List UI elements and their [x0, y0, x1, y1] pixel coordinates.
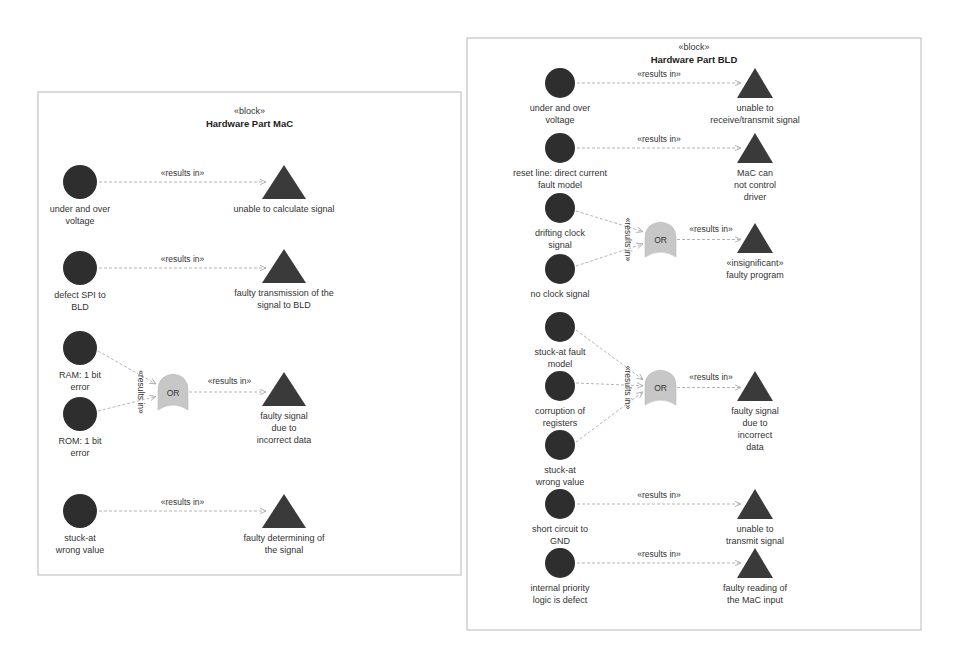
effect-label-line: «insignificant»	[726, 258, 783, 268]
cause-label-line: wrong value	[535, 477, 585, 487]
effect-label-line: unable to	[736, 524, 773, 534]
cause-label-line: stuck-at	[544, 465, 576, 475]
effect-label-line: faulty transmission of the	[234, 288, 334, 298]
effect-label-line: receive/transmit signal	[710, 115, 800, 125]
effect-label-line: the MaC input	[727, 595, 784, 605]
cause-circle-icon	[545, 430, 575, 460]
cause-circle-icon	[545, 489, 575, 519]
effect-label-line: incorrect	[738, 430, 773, 440]
effect-label-line: unable to	[736, 103, 773, 113]
block-mac: «block»Hardware Part MaC«results in»«res…	[38, 92, 461, 575]
gate-inputs-label: «results in»	[623, 218, 633, 262]
effect-label-line: signal to BLD	[257, 300, 311, 310]
results-in-label: «results in»	[161, 168, 205, 178]
results-in-label: «results in»	[637, 490, 681, 500]
or-gate-label: OR	[654, 383, 667, 393]
effect-label-line: faulty signal	[731, 406, 779, 416]
cause-label-line: reset line: direct current	[513, 168, 608, 178]
effect-label-line: faulty reading of	[723, 583, 788, 593]
effect-label-line: data	[746, 442, 764, 452]
effect-label-line: incorrect data	[257, 435, 312, 445]
cause-label-line: ROM: 1 bit	[58, 436, 102, 446]
cause-label-line: defect SPI to	[54, 290, 106, 300]
effect-label-line: transmit signal	[726, 536, 784, 546]
cause-circle-icon	[545, 548, 575, 578]
block-bld: «block»Hardware Part BLD«results in»«res…	[467, 38, 921, 630]
cause-circle-icon	[545, 312, 575, 342]
results-in-label: «results in»	[161, 497, 205, 507]
effect-label-line: not control	[734, 180, 776, 190]
gate-inputs-label: «results in»	[623, 366, 633, 410]
cause-label-line: logic is defect	[533, 595, 588, 605]
cause-label-line: GND	[550, 536, 571, 546]
block-frame	[467, 38, 921, 630]
block-title: Hardware Part MaC	[206, 118, 293, 129]
cause-label-line: under and over	[530, 103, 591, 113]
cause-label-line: under and over	[50, 204, 111, 214]
cause-circle-icon	[545, 68, 575, 98]
cause-circle-icon	[63, 165, 97, 199]
results-in-label: «results in»	[637, 134, 681, 144]
effect-label-line: due to	[742, 418, 767, 428]
cause-label-line: fault model	[538, 180, 582, 190]
gate-inputs-label: «results in»	[136, 370, 146, 414]
block-stereotype: «block»	[234, 106, 265, 116]
or-gate-label: OR	[654, 235, 667, 245]
cause-label-line: error	[70, 448, 89, 458]
block-title: Hardware Part BLD	[651, 54, 738, 65]
cause-circle-icon	[545, 193, 575, 223]
cause-label-line: voltage	[545, 115, 574, 125]
fault-tree-diagram: «block»Hardware Part MaC«results in»«res…	[0, 0, 964, 667]
cause-label-line: internal priority	[530, 583, 590, 593]
block-stereotype: «block»	[678, 42, 709, 52]
cause-label-line: no clock signal	[530, 289, 589, 299]
cause-circle-icon	[63, 494, 97, 528]
effect-label: unable to calculate signal	[233, 204, 334, 214]
cause-label-line: model	[548, 359, 573, 369]
cause-label-line: signal	[548, 240, 572, 250]
cause-label-line: stuck-at fault	[534, 347, 586, 357]
results-in-label: «results in»	[637, 69, 681, 79]
cause-circle-icon	[545, 133, 575, 163]
results-in-label: «results in»	[637, 549, 681, 559]
cause-circle-icon	[63, 397, 97, 431]
cause-label-line: BLD	[71, 302, 89, 312]
block-frame	[38, 92, 461, 575]
cause-label-line: registers	[543, 418, 578, 428]
effect-label-line: unable to calculate signal	[233, 204, 334, 214]
cause-label-line: stuck-at	[64, 533, 96, 543]
cause-circle-icon	[63, 251, 97, 285]
cause-label: no clock signal	[530, 289, 589, 299]
effect-label-line: due to	[271, 423, 296, 433]
effect-label-line: driver	[744, 192, 767, 202]
cause-circle-icon	[63, 331, 97, 365]
cause-label-line: drifting clock	[535, 228, 586, 238]
cause-label-line: wrong value	[55, 545, 105, 555]
cause-circle-icon	[545, 371, 575, 401]
gate-output-label: «results in»	[689, 224, 733, 234]
cause-label-line: short circuit to	[532, 524, 588, 534]
cause-label-line: voltage	[65, 216, 94, 226]
cause-circle-icon	[545, 254, 575, 284]
effect-label-line: faulty signal	[260, 411, 308, 421]
effect-label-line: the signal	[265, 545, 304, 555]
gate-output-label: «results in»	[208, 376, 252, 386]
gate-output-label: «results in»	[689, 372, 733, 382]
results-in-label: «results in»	[161, 254, 205, 264]
cause-label-line: RAM: 1 bit	[59, 370, 102, 380]
effect-label-line: faulty determining of	[243, 533, 325, 543]
cause-label-line: corruption of	[535, 406, 586, 416]
or-gate-label: OR	[167, 388, 180, 398]
effect-label-line: MaC can	[737, 168, 773, 178]
effect-label-line: faulty program	[726, 270, 784, 280]
cause-label-line: error	[70, 382, 89, 392]
